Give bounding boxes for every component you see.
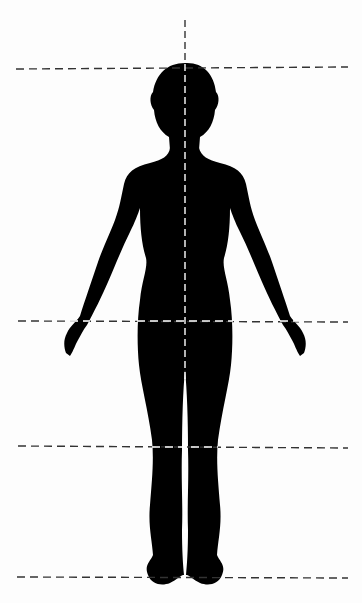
- guide-sole: [17, 577, 348, 578]
- body-proportion-diagram: [0, 0, 362, 603]
- diagram-canvas: [0, 0, 362, 603]
